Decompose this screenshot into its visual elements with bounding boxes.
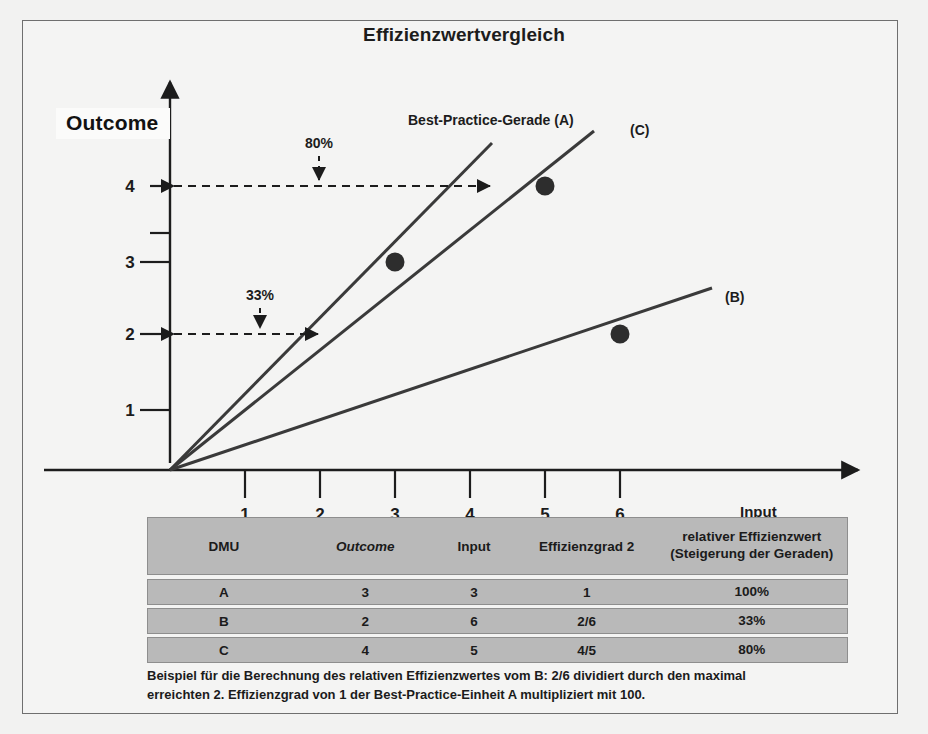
y-tick-1: 1: [125, 401, 134, 420]
y-tick-4: 4: [125, 177, 135, 196]
annotation-80: 80%: [174, 135, 490, 186]
cell-relative: 33%: [657, 613, 847, 630]
series-line-b: [170, 288, 712, 470]
th-dmu: DMU: [148, 539, 300, 554]
cell-outcome: 4: [300, 643, 432, 658]
y-axis-ticks: [140, 186, 170, 410]
cell-relative: 80%: [657, 642, 847, 659]
footnote: Beispiel für die Berechnung des relative…: [147, 667, 889, 705]
x-axis-ticks: [245, 470, 620, 498]
cell-input: 5: [431, 643, 517, 658]
footnote-line-1: Beispiel für die Berechnung des relative…: [147, 667, 889, 686]
efficiency-table: DMU Outcome Input Effizienzgrad 2 relati…: [147, 517, 848, 666]
th-relative-line2: (Steigerung der Geraden): [657, 546, 847, 563]
annotation-80-label: 80%: [305, 135, 334, 151]
cell-efficiency: 2/6: [517, 614, 657, 629]
data-point-c: [536, 177, 555, 196]
slide-canvas: Effizienzwertvergleich: [0, 0, 928, 734]
table-header-row: DMU Outcome Input Effizienzgrad 2 relati…: [147, 517, 848, 575]
cell-efficiency: 1: [517, 585, 657, 600]
table-row: B 2 6 2/6 33%: [147, 608, 848, 634]
annotation-33: 33%: [174, 287, 318, 334]
cell-outcome: 3: [300, 585, 432, 600]
table-row: C 4 5 4/5 80%: [147, 637, 848, 663]
table-row: A 3 3 1 100%: [147, 579, 848, 605]
cell-dmu: B: [148, 614, 300, 629]
series-label-a: Best-Practice-Gerade (A): [408, 112, 574, 128]
footnote-line-2: erreichten 2. Effizienzgrad von 1 der Be…: [147, 686, 889, 705]
th-input: Input: [431, 539, 517, 554]
data-point-b: [611, 325, 630, 344]
th-outcome: Outcome: [300, 539, 432, 554]
y-axis-title: Outcome: [56, 108, 170, 139]
th-relative-line1: relativer Effizienzwert: [657, 529, 847, 546]
y-tick-2: 2: [125, 325, 134, 344]
cell-efficiency: 4/5: [517, 643, 657, 658]
cell-input: 6: [431, 614, 517, 629]
series-label-c: (C): [630, 122, 649, 138]
th-efficiency: Effizienzgrad 2: [517, 539, 657, 554]
th-relative: relativer Effizienzwert (Steigerung der …: [657, 529, 847, 563]
cell-input: 3: [431, 585, 517, 600]
series-label-b: (B): [725, 289, 744, 305]
cell-relative: 100%: [657, 584, 847, 601]
annotation-33-label: 33%: [246, 287, 275, 303]
y-tick-3: 3: [125, 253, 134, 272]
data-point-a: [386, 253, 405, 272]
cell-dmu: C: [148, 643, 300, 658]
series-line-c: [170, 131, 594, 470]
series-line-a: [170, 143, 492, 470]
cell-dmu: A: [148, 585, 300, 600]
cell-outcome: 2: [300, 614, 432, 629]
